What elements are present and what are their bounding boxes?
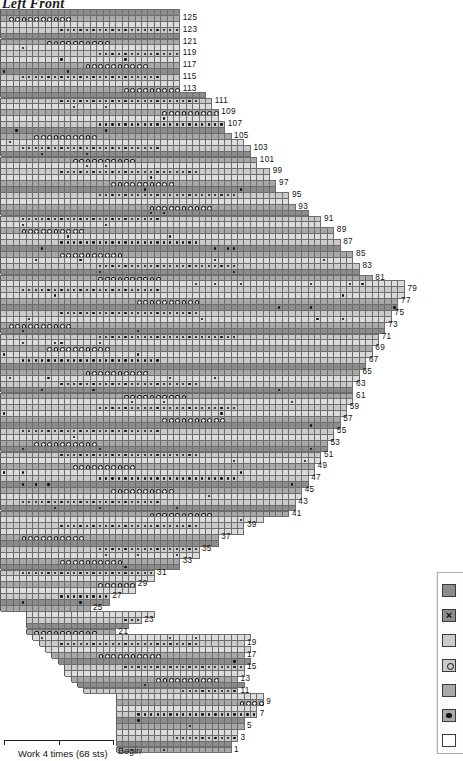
row-number-51: 51	[324, 451, 334, 459]
row-number-85: 85	[356, 250, 366, 258]
chart-cell[interactable]	[136, 618, 142, 624]
row-number-81: 81	[375, 274, 385, 282]
row-number-27: 27	[112, 592, 122, 600]
row-number-111: 111	[215, 97, 228, 105]
row-number-19: 19	[247, 639, 257, 647]
chart-cell[interactable]	[193, 553, 199, 559]
row-number-5: 5	[247, 722, 252, 730]
row-number-119: 119	[183, 49, 197, 57]
legend-row-4	[438, 678, 463, 703]
row-number-37: 37	[221, 533, 231, 541]
stitch-repeat-label: Work 4 times (68 sts)	[18, 748, 108, 759]
row-number-33: 33	[183, 557, 193, 565]
row-number-105: 105	[234, 132, 249, 140]
swatch-dark-plain	[442, 584, 456, 597]
row-number-53: 53	[330, 439, 340, 447]
row-number-31: 31	[157, 569, 167, 577]
row-number-113: 113	[183, 85, 197, 93]
knitting-chart-grid[interactable]	[0, 9, 430, 744]
row-number-109: 109	[221, 108, 236, 116]
row-number-115: 115	[183, 73, 197, 81]
row-number-93: 93	[298, 203, 308, 211]
chart-cell[interactable]	[232, 736, 238, 742]
row-number-83: 83	[363, 262, 373, 270]
chart-cell[interactable]	[104, 600, 110, 606]
chart-cell[interactable]	[257, 700, 263, 706]
chart-cell[interactable]	[251, 712, 257, 718]
row-number-47: 47	[311, 474, 321, 482]
row-number-43: 43	[298, 498, 308, 506]
row-number-87: 87	[343, 238, 353, 246]
chart-page: Left Front 12512312111911711511311110910…	[0, 0, 463, 761]
chart-legend	[437, 572, 463, 754]
row-number-67: 67	[369, 356, 379, 364]
legend-row-2	[438, 628, 463, 653]
row-number-55: 55	[337, 427, 347, 435]
row-number-35: 35	[202, 545, 212, 553]
chart-cell[interactable]	[283, 512, 289, 518]
swatch-white-plain	[442, 734, 456, 747]
row-number-91: 91	[324, 215, 334, 223]
row-number-13: 13	[241, 675, 251, 683]
row-number-79: 79	[407, 285, 417, 293]
chart-cell[interactable]	[238, 529, 244, 535]
row-number-11: 11	[241, 687, 250, 695]
row-number-77: 77	[401, 297, 411, 305]
chart-cell[interactable]	[212, 541, 218, 547]
legend-row-5	[438, 703, 463, 728]
row-number-41: 41	[292, 510, 302, 518]
swatch-dark-cross-icon	[442, 609, 456, 622]
row-number-1: 1	[234, 746, 239, 754]
chart-cell[interactable]	[225, 748, 231, 754]
legend-row-1	[438, 603, 463, 628]
row-number-69: 69	[375, 344, 385, 352]
row-number-59: 59	[350, 403, 360, 411]
swatch-light-circle-icon	[442, 659, 456, 672]
row-number-9: 9	[266, 698, 271, 706]
row-number-15: 15	[247, 663, 257, 671]
row-number-61: 61	[356, 392, 366, 400]
row-number-95: 95	[292, 191, 302, 199]
row-number-107: 107	[228, 120, 243, 128]
row-number-21: 21	[119, 628, 129, 636]
row-number-49: 49	[318, 462, 328, 470]
swatch-light-plain	[442, 634, 456, 647]
row-number-25: 25	[93, 604, 103, 612]
chart-cell[interactable]	[257, 517, 263, 523]
chart-cell[interactable]	[129, 588, 135, 594]
row-number-97: 97	[279, 179, 289, 187]
row-number-3: 3	[241, 734, 246, 742]
chart-cell[interactable]	[174, 565, 180, 571]
row-number-101: 101	[260, 156, 275, 164]
row-number-89: 89	[337, 226, 347, 234]
row-number-45: 45	[305, 486, 315, 494]
chart-cell[interactable]	[238, 724, 244, 730]
swatch-medium-plain	[442, 684, 456, 697]
row-number-63: 63	[356, 380, 366, 388]
row-number-123: 123	[183, 26, 198, 34]
row-number-65: 65	[363, 368, 373, 376]
legend-row-3	[438, 653, 463, 678]
row-number-23: 23	[144, 616, 154, 624]
legend-row-0	[438, 578, 463, 603]
row-number-75: 75	[395, 309, 405, 317]
row-number-57: 57	[343, 415, 353, 423]
swatch-medium-dot-icon	[442, 709, 456, 722]
row-number-73: 73	[388, 321, 398, 329]
row-number-7: 7	[260, 710, 265, 718]
row-number-71: 71	[382, 333, 392, 341]
row-number-29: 29	[138, 580, 148, 588]
begin-label: Begin	[118, 746, 141, 756]
legend-row-6	[438, 728, 463, 753]
row-number-117: 117	[183, 61, 197, 69]
stitch-repeat-bracket	[4, 740, 114, 745]
row-number-121: 121	[183, 38, 198, 46]
chart-cell[interactable]	[148, 576, 154, 582]
row-number-103: 103	[253, 144, 268, 152]
row-number-17: 17	[247, 651, 257, 659]
row-number-125: 125	[183, 14, 198, 22]
row-number-39: 39	[247, 521, 257, 529]
row-number-99: 99	[273, 167, 283, 175]
